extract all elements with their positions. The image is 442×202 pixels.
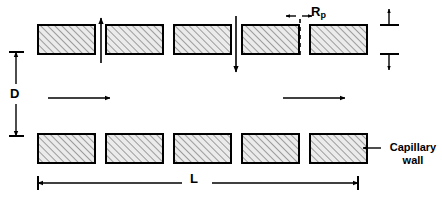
endothelial-cell	[310, 134, 367, 163]
capillary-wall-line-1: Capillary	[390, 141, 436, 153]
endothelial-cell	[38, 25, 95, 54]
label-diameter-D: D	[10, 87, 20, 101]
endothelial-cell	[242, 25, 299, 54]
endothelial-cell	[174, 25, 231, 54]
label-pore-radius-Rp: Rp	[311, 5, 326, 20]
endothelial-cell	[38, 134, 95, 163]
capillary-wall-diagram: D L Rp Capillarywall	[0, 0, 442, 202]
bottom-cell-row	[38, 134, 367, 163]
endothelial-cell	[106, 134, 163, 163]
endothelial-cell	[310, 25, 367, 54]
label-pore-radius-base: R	[311, 4, 320, 19]
label-pore-radius-subscript: p	[320, 10, 326, 20]
dimension-line-L	[38, 176, 358, 190]
endothelial-cell	[242, 134, 299, 163]
top-cell-row	[38, 25, 367, 54]
endothelial-cell	[106, 25, 163, 54]
diagram-canvas	[0, 0, 442, 202]
capillary-wall-line-2: wall	[403, 154, 424, 166]
label-length-L: L	[190, 172, 198, 186]
endothelial-cell	[174, 134, 231, 163]
label-capillary-wall: Capillarywall	[385, 141, 441, 166]
dimension-line-t	[380, 9, 399, 70]
